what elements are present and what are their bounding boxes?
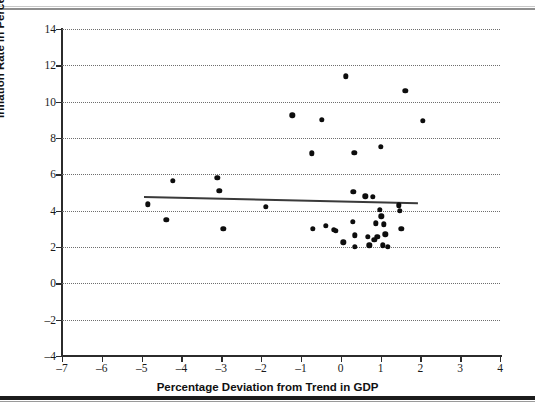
x-axis-tick-label: 3 (457, 362, 463, 374)
y-axis-tick-label: 0 (50, 277, 56, 289)
x-axis-tick-label: –1 (295, 362, 307, 374)
x-axis-tick-label: 2 (417, 362, 423, 374)
x-axis-tick-label: –6 (96, 362, 108, 374)
bottom-rule-thin (0, 401, 535, 402)
y-axis-tick (56, 29, 62, 30)
gridline-y (62, 211, 500, 212)
data-point (378, 144, 383, 149)
top-rule (0, 8, 535, 10)
y-axis-tick (56, 211, 62, 212)
y-axis-tick-label: 4 (50, 205, 56, 217)
y-axis-tick (56, 320, 62, 321)
data-point (363, 193, 368, 198)
y-axis-tick-label: –4 (45, 350, 57, 362)
data-point (403, 88, 408, 93)
y-axis-tick (56, 174, 62, 175)
data-point (399, 226, 404, 231)
data-point (373, 221, 378, 226)
gridline-y (62, 65, 500, 66)
x-axis-tick-labels: –7–6–5–4–3–2–101234 (62, 362, 500, 380)
y-axis-tick (56, 65, 62, 66)
data-point (164, 217, 169, 222)
data-point (351, 189, 356, 194)
gridline-y (62, 283, 500, 284)
gridline-y (62, 102, 500, 103)
data-point (215, 175, 220, 180)
data-point (221, 226, 226, 231)
data-point (352, 150, 357, 155)
x-axis-tick-label: –2 (255, 362, 267, 374)
figure-container: –4–202468101214 –7–6–5–4–3–2–101234 Infl… (0, 0, 535, 411)
data-point (289, 113, 294, 118)
x-axis-title: Percentage Deviation from Trend in GDP (0, 381, 535, 393)
x-axis-tick-label: –4 (176, 362, 188, 374)
gridline-y (62, 320, 500, 321)
gridline-y (62, 138, 500, 139)
x-axis-tick-label: –5 (136, 362, 148, 374)
data-point (217, 188, 222, 193)
data-point (370, 194, 375, 199)
y-axis-tick-label: 12 (45, 59, 57, 71)
y-axis-tick-label: 14 (45, 23, 57, 35)
x-axis-tick-label: –7 (56, 362, 68, 374)
data-point (383, 232, 388, 237)
data-point (323, 223, 328, 228)
x-axis-tick-label: 1 (378, 362, 384, 374)
data-point (350, 219, 355, 224)
gridline-y (62, 29, 500, 30)
top-rule-thin (0, 6, 535, 7)
data-point (170, 178, 175, 183)
data-point (309, 151, 314, 156)
data-point (379, 213, 384, 218)
data-point (397, 208, 402, 213)
data-point (375, 234, 380, 239)
y-axis-tick-label: 2 (50, 241, 56, 253)
data-point (340, 240, 345, 245)
y-axis-tick (56, 247, 62, 248)
y-axis-tick-label: 6 (50, 168, 56, 180)
data-point (310, 226, 315, 231)
bottom-rule (0, 396, 535, 400)
y-axis-title: Inflation Rate in Percent (0, 0, 6, 118)
trend-line (144, 196, 418, 204)
data-point (145, 202, 150, 207)
data-point (352, 244, 357, 249)
x-axis-tick-label: 0 (338, 362, 344, 374)
y-axis-tick-label: –2 (45, 314, 57, 326)
data-point (381, 222, 386, 227)
data-point (420, 118, 425, 123)
gridline-y (62, 174, 500, 175)
data-point (343, 74, 348, 79)
gridline-y (62, 247, 500, 248)
data-point (365, 234, 370, 239)
data-point (333, 228, 338, 233)
y-axis-tick-label: 8 (50, 132, 56, 144)
x-axis-tick-label: –3 (216, 362, 228, 374)
data-point (319, 117, 324, 122)
y-axis-tick-labels: –4–202468101214 (14, 29, 56, 356)
data-point (352, 232, 357, 237)
y-axis-tick (56, 102, 62, 103)
y-axis-tick-label: 10 (45, 96, 57, 108)
plot-area (62, 29, 500, 356)
y-axis-tick (56, 283, 62, 284)
data-point (263, 204, 268, 209)
y-axis-tick (56, 138, 62, 139)
data-point (385, 244, 390, 249)
x-axis-tick-label: 4 (497, 362, 503, 374)
